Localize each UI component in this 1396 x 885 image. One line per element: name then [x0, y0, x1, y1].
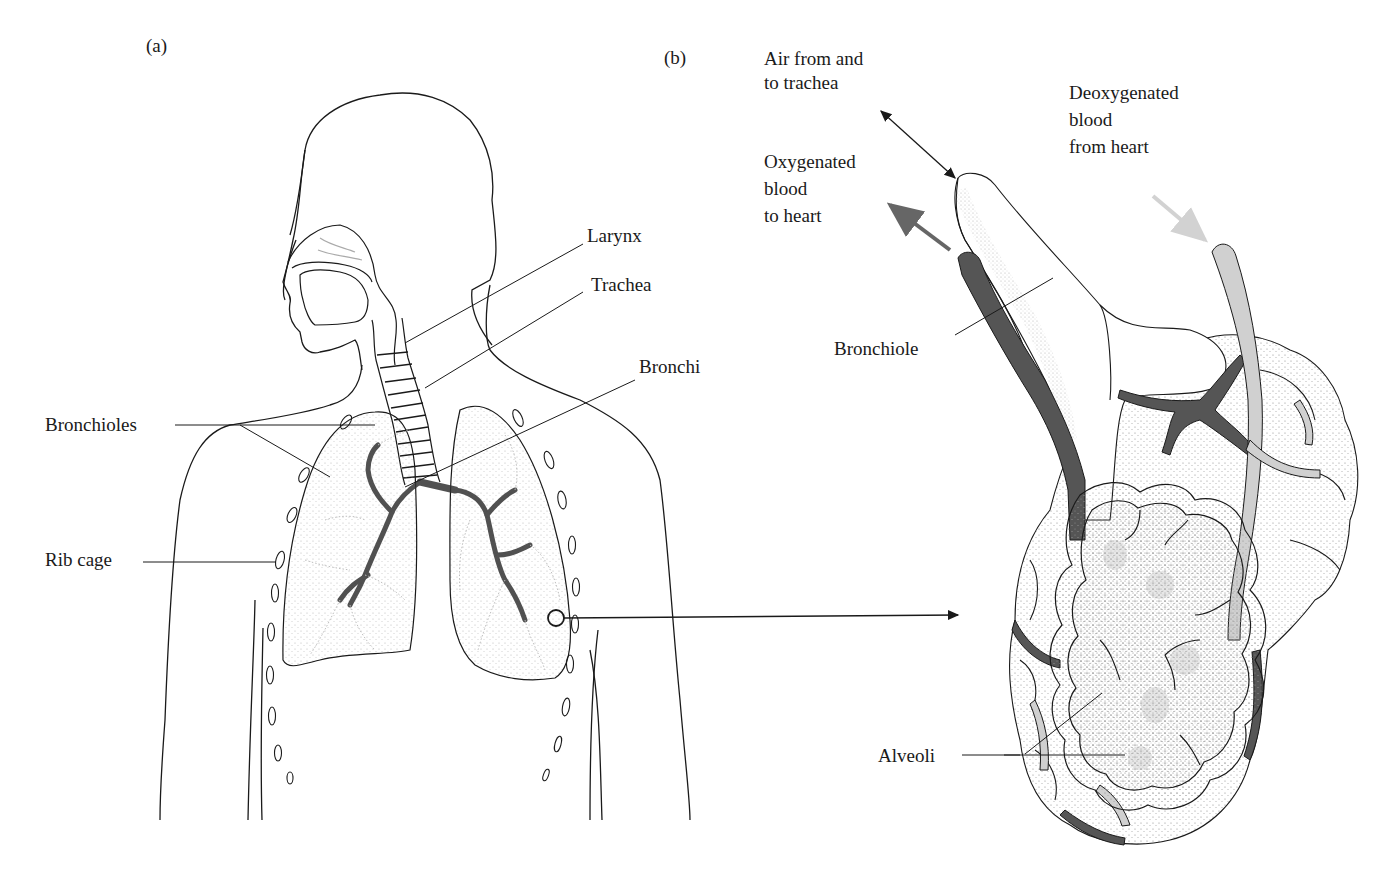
label-air-from-and-to-trachea: Air from and to trachea [764, 47, 863, 95]
label-trachea: Trachea [591, 273, 652, 297]
label-rib-cage: Rib cage [45, 548, 112, 572]
label-deoxygenated-blood: Deoxygenated blood from heart [1069, 79, 1179, 160]
label-bronchiole: Bronchiole [834, 337, 918, 361]
label-bronchi: Bronchi [639, 355, 700, 379]
panel-b-tag: (b) [664, 46, 686, 70]
nasal-oral-cavity [288, 225, 396, 365]
label-larynx: Larynx [587, 224, 642, 248]
alveolus-cross-section [1050, 483, 1266, 810]
respiratory-system-diagram [0, 0, 1396, 885]
label-oxygenated-blood: Oxygenated blood to heart [764, 148, 856, 229]
label-bronchioles: Bronchioles [45, 413, 137, 437]
panel-a-tag: (a) [146, 34, 167, 58]
left-lung [283, 412, 417, 666]
zoom-arrow [564, 615, 958, 618]
deoxygenated-flow-arrow [1153, 196, 1205, 240]
air-flow-arrow [881, 111, 955, 178]
oxygenated-flow-arrow [890, 205, 950, 250]
right-lung [450, 406, 571, 680]
label-alveoli: Alveoli [878, 744, 935, 768]
human-figure [160, 93, 690, 820]
